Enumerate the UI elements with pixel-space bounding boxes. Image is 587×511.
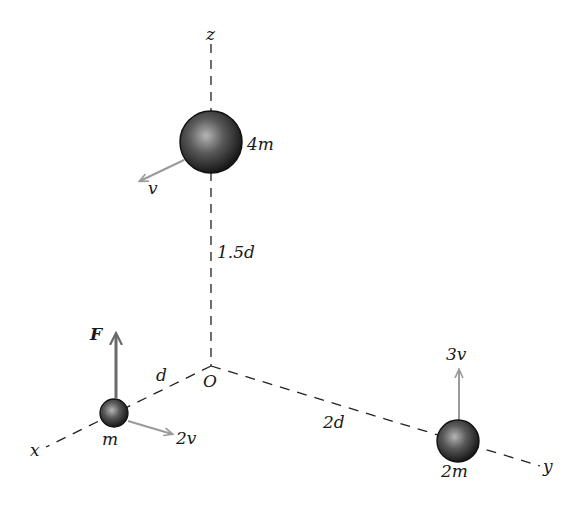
mass-4m (140, 111, 242, 181)
sphere-4m (180, 111, 242, 173)
distance-y-label: 2d (322, 412, 345, 432)
velocity-3v-label: 3v (446, 344, 467, 364)
sphere-2m (437, 420, 479, 462)
force-F-label: F (89, 324, 104, 344)
origin-label: O (203, 371, 217, 391)
distance-x-label: d (156, 365, 167, 385)
mass-m-label: m (102, 429, 118, 449)
velocity-2v-arrow (128, 421, 172, 434)
y-axis (211, 366, 540, 466)
velocity-v-label: v (148, 178, 158, 198)
velocity-v-arrow (140, 160, 184, 181)
distance-z-label: 1.5d (217, 242, 255, 262)
z-axis-label: z (205, 24, 216, 44)
mass-4m-label: 4m (246, 134, 274, 154)
sphere-m (100, 399, 128, 427)
mass-2m-label: 2m (440, 461, 468, 481)
velocity-2v-label: 2v (175, 428, 197, 448)
x-axis-label: x (30, 440, 40, 460)
mass-2m (437, 370, 479, 462)
y-axis-label: y (542, 456, 553, 476)
diagram-canvas: z x y O 4m v m 2v F 2m 3v 1.5d d 2d (0, 0, 587, 511)
